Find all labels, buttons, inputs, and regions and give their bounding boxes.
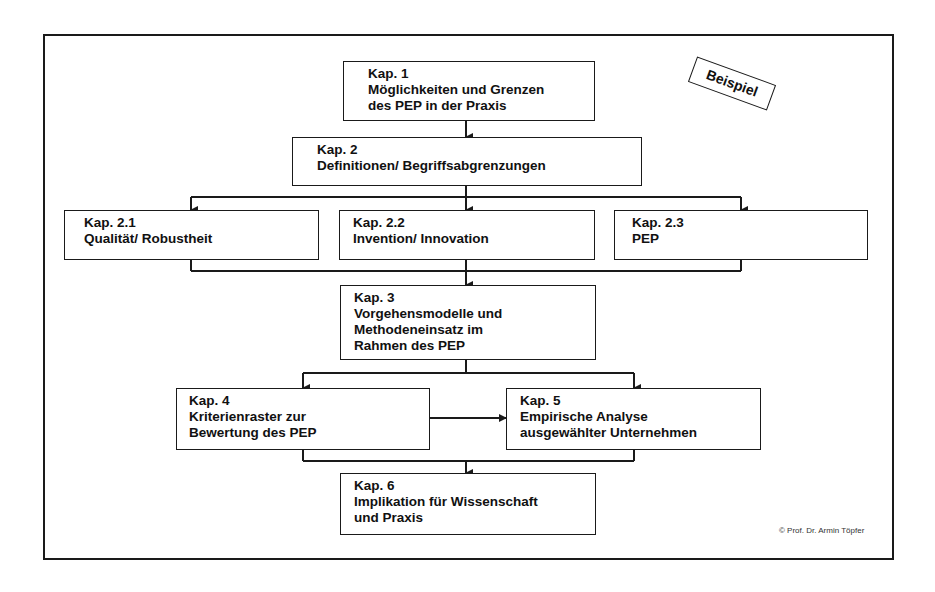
box-kap6-text: und Praxis	[354, 510, 595, 526]
box-kap5-title: Kap. 5	[520, 393, 760, 409]
box-kap2-title: Kap. 2	[317, 142, 641, 158]
box-kap4: Kap. 4 Kriterienraster zur Bewertung des…	[176, 388, 430, 450]
box-kap5: Kap. 5 Empirische Analyse ausgewählter U…	[506, 388, 761, 450]
box-kap2-2: Kap. 2.2 Invention/ Innovation	[339, 210, 595, 260]
box-kap2-1: Kap. 2.1 Qualität/ Robustheit	[64, 210, 319, 260]
box-kap5-text: Empirische Analyse	[520, 409, 760, 425]
box-kap2-3-text: PEP	[632, 231, 867, 247]
box-kap3-text: Vorgehensmodelle und	[354, 306, 595, 322]
box-kap6: Kap. 6 Implikation für Wissenschaft und …	[340, 473, 596, 535]
box-kap2-1-title: Kap. 2.1	[84, 215, 318, 231]
box-kap2-text: Definitionen/ Begriffsabgrenzungen	[317, 158, 641, 174]
box-kap3-text: Methodeneinsatz im	[354, 322, 595, 338]
box-kap4-text: Bewertung des PEP	[189, 425, 429, 441]
box-kap4-text: Kriterienraster zur	[189, 409, 429, 425]
box-kap2-2-title: Kap. 2.2	[353, 215, 594, 231]
box-kap1-title: Kap. 1	[368, 66, 594, 82]
box-kap1-text: Möglichkeiten und Grenzen	[368, 82, 594, 98]
box-kap6-text: Implikation für Wissenschaft	[354, 494, 595, 510]
box-kap3-text: Rahmen des PEP	[354, 338, 595, 354]
box-kap2-2-text: Invention/ Innovation	[353, 231, 594, 247]
box-kap2: Kap. 2 Definitionen/ Begriffsabgrenzunge…	[292, 137, 642, 186]
copyright-note: © Prof. Dr. Armin Töpfer	[779, 526, 864, 535]
box-kap5-text: ausgewählter Unternehmen	[520, 425, 760, 441]
box-kap2-3: Kap. 2.3 PEP	[614, 210, 868, 260]
box-kap4-title: Kap. 4	[189, 393, 429, 409]
box-kap3: Kap. 3 Vorgehensmodelle und Methodeneins…	[340, 285, 596, 360]
box-kap1-text: des PEP in der Praxis	[368, 98, 594, 114]
box-kap2-1-text: Qualität/ Robustheit	[84, 231, 318, 247]
box-kap2-3-title: Kap. 2.3	[632, 215, 867, 231]
box-kap1: Kap. 1 Möglichkeiten und Grenzen des PEP…	[343, 61, 595, 121]
box-kap6-title: Kap. 6	[354, 478, 595, 494]
box-kap3-title: Kap. 3	[354, 290, 595, 306]
